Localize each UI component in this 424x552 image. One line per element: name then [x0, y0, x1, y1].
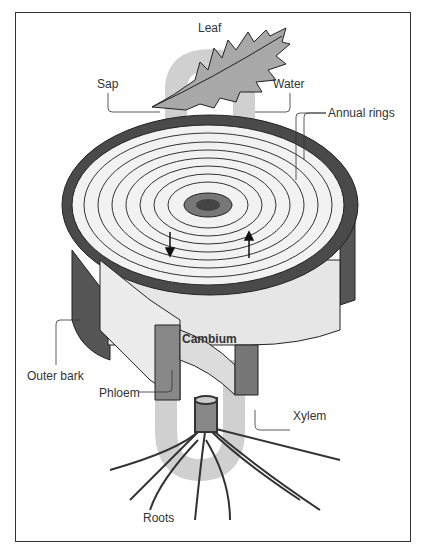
- label-xylem: Xylem: [293, 410, 326, 422]
- label-phloem: Phloem: [99, 387, 140, 399]
- label-roots: Roots: [143, 512, 174, 524]
- label-outer-bark: Outer bark: [27, 370, 84, 382]
- label-sap: Sap: [97, 78, 118, 90]
- label-cambium: Cambium: [182, 333, 237, 345]
- tree-trunk-illustration: [0, 0, 424, 552]
- label-water: Water: [273, 78, 305, 90]
- label-leaf: Leaf: [198, 22, 221, 34]
- label-annual-rings: Annual rings: [328, 107, 395, 119]
